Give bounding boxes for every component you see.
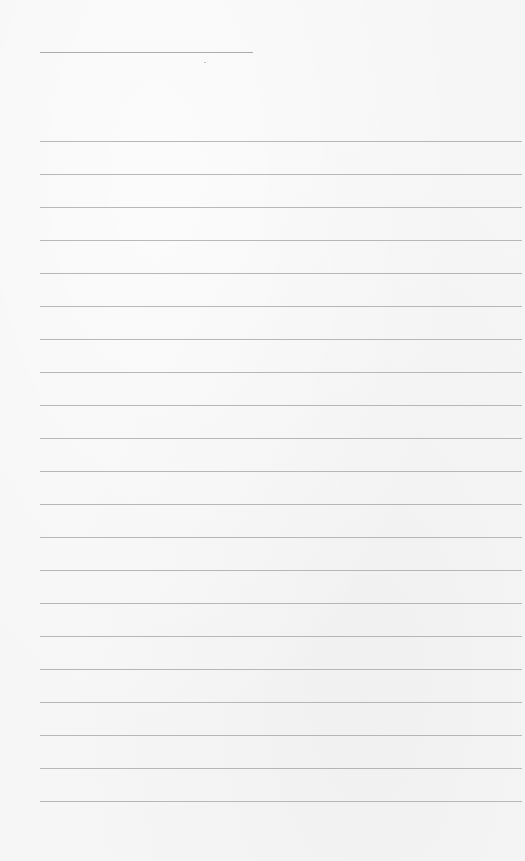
ruled-line xyxy=(40,240,522,241)
ruled-line xyxy=(40,339,522,340)
ruled-line xyxy=(40,768,522,769)
ruled-line xyxy=(40,471,522,472)
ruled-line xyxy=(40,207,522,208)
ruled-line xyxy=(40,702,522,703)
ruled-line xyxy=(40,372,522,373)
ruled-line xyxy=(40,141,522,142)
ruled-line xyxy=(40,273,522,274)
ruled-line xyxy=(40,537,522,538)
ruled-line xyxy=(40,669,522,670)
ruled-line xyxy=(40,735,522,736)
ruled-line xyxy=(40,306,522,307)
ruled-line xyxy=(40,636,522,637)
title-line xyxy=(40,52,253,53)
ruled-line xyxy=(40,174,522,175)
ruled-line xyxy=(40,405,522,406)
ruled-line xyxy=(40,801,522,802)
ruled-line xyxy=(40,504,522,505)
ruled-line xyxy=(40,603,522,604)
lined-paper-sheet xyxy=(0,0,525,861)
ruled-line xyxy=(40,438,522,439)
paper-speck xyxy=(204,62,206,63)
ruled-line xyxy=(40,570,522,571)
